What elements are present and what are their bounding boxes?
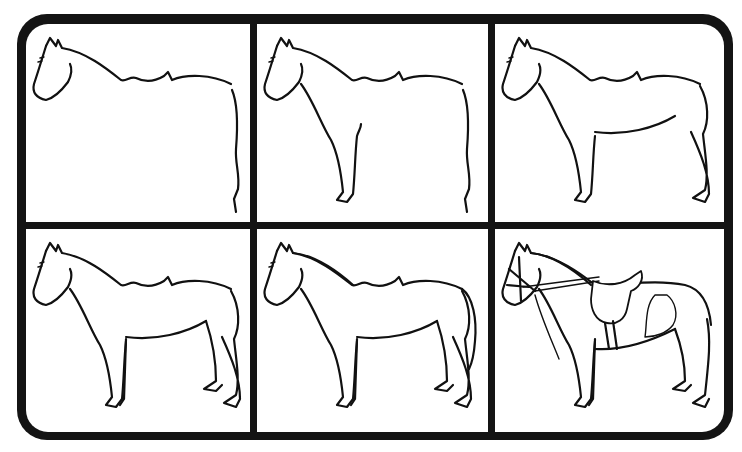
horse-step-2-drawing: [257, 24, 488, 222]
horse-step-3-drawing: [495, 24, 724, 222]
step-3-panel: [495, 24, 724, 222]
step-4-panel: [26, 229, 250, 432]
horse-step-1-drawing: [26, 24, 250, 222]
step-1-panel: [26, 24, 250, 222]
step-2-panel: [257, 24, 488, 222]
step-6-panel: [495, 229, 724, 432]
horse-step-6-drawing: [495, 229, 724, 432]
horse-step-4-drawing: [26, 229, 250, 432]
step-5-panel: [257, 229, 488, 432]
horse-step-5-drawing: [257, 229, 488, 432]
